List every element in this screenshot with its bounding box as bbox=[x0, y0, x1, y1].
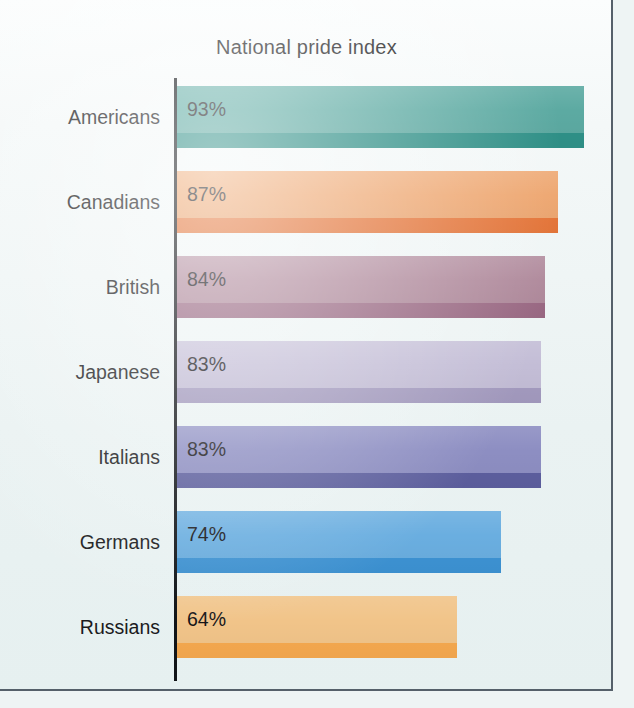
bar-row: Canadians87% bbox=[0, 171, 613, 233]
category-label: Canadians bbox=[0, 171, 160, 233]
bar-value-label: 87% bbox=[187, 171, 226, 218]
bar-germans: 74% bbox=[177, 511, 501, 573]
scanned-page-background: National pride index Americans93%Canadia… bbox=[0, 0, 634, 708]
category-label: Germans bbox=[0, 511, 160, 573]
bar-canadians: 87% bbox=[177, 171, 558, 233]
category-label: Japanese bbox=[0, 341, 160, 403]
bar-italians: 83% bbox=[177, 426, 541, 488]
bar-value-label: 83% bbox=[187, 341, 226, 388]
bar-value-label: 83% bbox=[187, 426, 226, 473]
bar-americans: 93% bbox=[177, 86, 584, 148]
bar-baseline-stripe bbox=[177, 303, 545, 318]
bar-baseline-stripe bbox=[177, 643, 457, 658]
bar-row: British84% bbox=[0, 256, 613, 318]
bar-baseline-stripe bbox=[177, 558, 501, 573]
bar-row: Japanese83% bbox=[0, 341, 613, 403]
chart-paper: National pride index Americans93%Canadia… bbox=[0, 0, 613, 691]
bar-japanese: 83% bbox=[177, 341, 541, 403]
bar-british: 84% bbox=[177, 256, 545, 318]
bar-baseline-stripe bbox=[177, 473, 541, 488]
bar-value-label: 93% bbox=[187, 86, 226, 133]
bar-row: Russians64% bbox=[0, 596, 613, 658]
bar-baseline-stripe bbox=[177, 388, 541, 403]
category-label: Russians bbox=[0, 596, 160, 658]
category-label: Americans bbox=[0, 86, 160, 148]
bar-baseline-stripe bbox=[177, 133, 584, 148]
bar-row: Italians83% bbox=[0, 426, 613, 488]
bar-value-label: 84% bbox=[187, 256, 226, 303]
bar-russians: 64% bbox=[177, 596, 457, 658]
bar-row: Americans93% bbox=[0, 86, 613, 148]
bar-row: Germans74% bbox=[0, 511, 613, 573]
category-label: British bbox=[0, 256, 160, 318]
bar-value-label: 64% bbox=[187, 596, 226, 643]
bar-baseline-stripe bbox=[177, 218, 558, 233]
bar-chart-plot-area: Americans93%Canadians87%British84%Japane… bbox=[0, 0, 613, 691]
category-label: Italians bbox=[0, 426, 160, 488]
bar-value-label: 74% bbox=[187, 511, 226, 558]
